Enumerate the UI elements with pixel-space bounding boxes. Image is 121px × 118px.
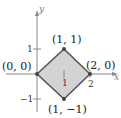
y-tick-label-neg1: −1 [20, 94, 33, 104]
vertex-point [62, 47, 66, 51]
vertex-label-origin: (0, 0) [2, 60, 32, 73]
y-axis-label: y [38, 4, 45, 14]
x-axis-label: x [114, 72, 119, 82]
vertex-point [62, 97, 66, 101]
diagram-canvas: y x 1 −1 1 2 (0, 0) (1, 1) (2, 0) (1, −1… [0, 0, 121, 118]
vertex-point [88, 72, 92, 76]
vertex-label-right: (2, 0) [86, 59, 116, 72]
y-tick-label-1: 1 [27, 44, 33, 54]
x-tick-label-2: 2 [88, 79, 94, 89]
vertex-label-top: (1, 1) [52, 33, 82, 46]
x-tick-label-1: 1 [62, 78, 68, 88]
vertex-point [35, 72, 39, 76]
vertex-label-bottom: (1, −1) [48, 103, 87, 116]
